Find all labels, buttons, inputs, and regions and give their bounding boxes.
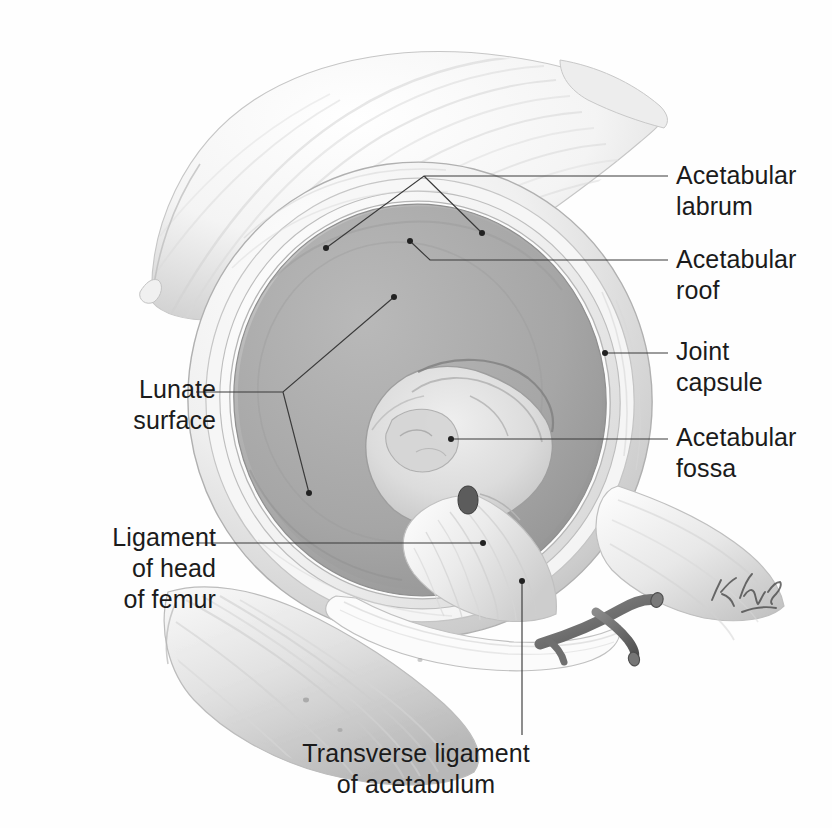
label-ligament-of-head-of-femur: Ligament of head of femur: [112, 522, 216, 615]
pubis-structure: [596, 486, 784, 640]
ligament-cut-stump: [458, 486, 478, 514]
acetabular-labrum-dot-1: [323, 245, 329, 251]
lunate-surface-dot-2: [306, 490, 312, 496]
ischium-foramen-2: [337, 728, 342, 732]
acetabular-fossa-dot: [448, 436, 454, 442]
acetabular-roof-dot: [407, 238, 413, 244]
anatomy-illustration: [0, 0, 832, 828]
ischium-foramen-3: [417, 658, 422, 662]
label-joint-capsule: Joint capsule: [676, 336, 763, 398]
ischium-foramen-1: [303, 698, 309, 703]
label-acetabular-labrum: Acetabular labrum: [676, 160, 797, 222]
transverse-ligament-dot: [519, 578, 525, 584]
label-lunate-surface: Lunate surface: [133, 374, 216, 436]
vessel-bundle: [540, 591, 665, 667]
label-acetabular-roof: Acetabular roof: [676, 244, 797, 306]
label-acetabular-fossa: Acetabular fossa: [676, 422, 797, 484]
label-transverse-ligament-of-acetabulum: Transverse ligament of acetabulum: [0, 738, 832, 800]
figure-page: Acetabular labrum Acetabular roof Joint …: [0, 0, 832, 828]
joint-capsule-dot: [602, 350, 608, 356]
ligament-of-head-of-femur-dot: [480, 540, 486, 546]
lunate-surface-dot-1: [391, 294, 397, 300]
acetabular-labrum-dot-2: [479, 230, 485, 236]
